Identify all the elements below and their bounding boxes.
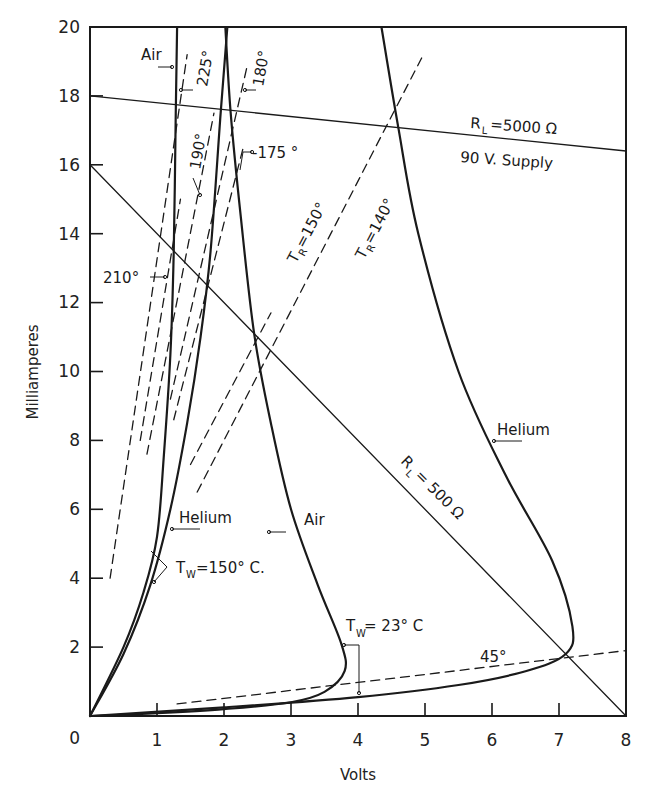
label-45-deg: 45° (480, 648, 507, 666)
label-rl5000-value: =5000 Ω (490, 115, 558, 138)
series-225 (110, 55, 187, 579)
label-helium-left: Helium (179, 509, 232, 527)
label-tw150-T: T (175, 559, 186, 577)
x-tick-label: 7 (554, 730, 565, 750)
y-tick-label: 0 (69, 728, 80, 748)
label-225-deg: 225° (193, 49, 217, 88)
x-tick-label: 4 (353, 730, 364, 750)
y-tick-label: 4 (69, 568, 80, 588)
label-tr-150: T R =150° (283, 199, 332, 267)
label-air-mid: Air (304, 511, 325, 529)
label-tw23-T: T (345, 617, 356, 635)
x-tick-label: 8 (621, 730, 632, 750)
label-rl5000-L: L (481, 125, 488, 136)
label-tw23-value: = 23° C (364, 617, 423, 635)
x-tick-label: 3 (286, 730, 297, 750)
label-180-deg: 180° (249, 49, 273, 88)
y-tick-label: 18 (58, 86, 80, 106)
series-tr-150 (191, 313, 271, 465)
label-rl500-R: R (397, 452, 417, 472)
y-tick-label: 14 (58, 224, 80, 244)
series-helium-tw-150-c (90, 27, 227, 716)
y-tick-label: 20 (58, 17, 80, 37)
y-axis-title: Milliamperes (24, 324, 42, 419)
x-tick-label: 2 (219, 730, 230, 750)
y-tick-label: 10 (58, 361, 80, 381)
y-tick-label: 8 (69, 430, 80, 450)
series-175 (174, 144, 244, 420)
label-rl-500: R L = 500 Ω (395, 452, 468, 525)
series-180 (170, 65, 247, 399)
label-tr150-value: =150° (292, 199, 331, 250)
label-rl5000-R: R (470, 114, 482, 133)
y-tick-label: 16 (58, 155, 80, 175)
x-axis-title: Volts (340, 766, 376, 784)
label-tr140-value: =140° (360, 195, 399, 246)
label-tw150-value: =150° C. (196, 559, 265, 577)
label-tw-23: T W = 23° C (345, 617, 423, 639)
y-axis-ticks (90, 96, 103, 647)
y-tick-label: 2 (69, 637, 80, 657)
label-90v-supply: 90 V. Supply (460, 148, 554, 172)
label-210-deg: 210° (103, 269, 139, 287)
label-190-deg: 190° (186, 132, 210, 171)
label-tw-150: T W =150° C. (175, 559, 265, 580)
label-175-deg: -175 ° (252, 144, 298, 162)
label-tw150-W: W (186, 569, 196, 580)
series-45 (177, 651, 626, 704)
label-rl-5000: R L =5000 Ω (470, 114, 558, 141)
label-rl500-value: = 500 Ω (411, 466, 468, 523)
x-axis-labels: 1 2 3 4 5 6 7 8 (152, 730, 632, 750)
y-axis-labels: 0 2 4 6 8 10 12 14 16 18 20 (58, 17, 80, 748)
x-tick-label: 6 (487, 730, 498, 750)
y-tick-label: 6 (69, 499, 80, 519)
label-air-top: Air (141, 46, 162, 64)
y-tick-label: 12 (58, 292, 80, 312)
series-air-tw-150-c (90, 27, 177, 716)
label-tr-140: T R =140° (351, 195, 400, 263)
x-tick-label: 5 (420, 730, 431, 750)
label-helium-right: Helium (497, 421, 550, 439)
series-air-tw-23-c (90, 27, 346, 716)
x-tick-label: 1 (152, 730, 163, 750)
chart: 0 2 4 6 8 10 12 14 16 18 20 1 2 3 4 5 6 … (0, 0, 649, 796)
